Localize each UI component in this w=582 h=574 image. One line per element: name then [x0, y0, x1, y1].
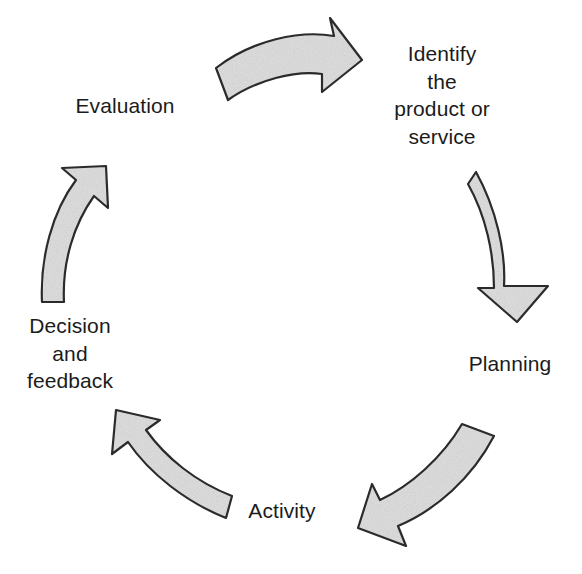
stage-label-identify: Identify the product or service	[362, 40, 522, 151]
arrow-bottom-right-icon	[358, 424, 494, 546]
arrow-right-icon	[468, 172, 548, 322]
arrow-top-icon	[216, 18, 362, 100]
stage-label-decision: Decision and feedback	[0, 312, 140, 395]
stage-label-evaluation: Evaluation	[40, 92, 210, 120]
process-cycle-diagram: Identify the product or service Planning…	[0, 0, 582, 574]
stage-label-planning: Planning	[440, 350, 580, 378]
arrow-left-icon	[42, 166, 108, 302]
stage-label-activity: Activity	[212, 497, 352, 525]
